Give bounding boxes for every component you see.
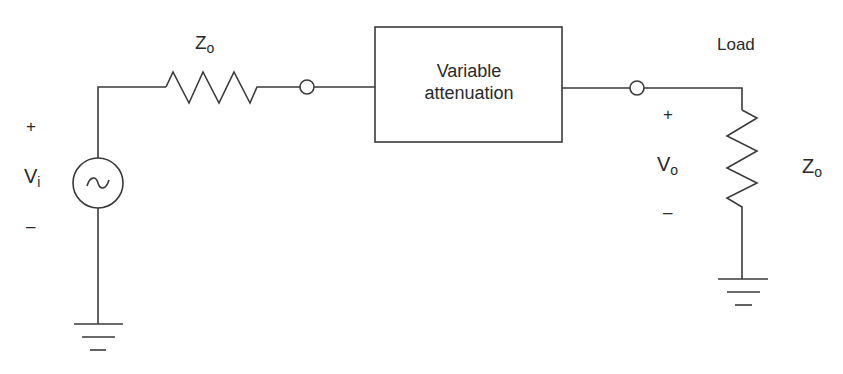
label-main: Z <box>802 155 814 177</box>
ac-source-tilde-icon <box>87 178 109 188</box>
wire-to-load <box>644 88 742 110</box>
input-terminal <box>300 80 314 94</box>
label-sub: o <box>670 162 678 178</box>
attenuator-label: Variable attenuation <box>375 60 563 104</box>
output-minus-sign: – <box>663 204 672 221</box>
label-main: V <box>24 165 37 187</box>
circuit-schematic <box>0 0 843 374</box>
label-main: V <box>657 153 670 175</box>
ground-symbol-left <box>74 324 123 350</box>
load-resistor-label: Zo <box>802 156 822 179</box>
output-voltage-label: Vo <box>657 154 678 177</box>
label-sub: o <box>814 164 822 180</box>
label-sub: i <box>37 174 40 190</box>
output-terminal <box>630 81 644 95</box>
ground-symbol-right <box>718 279 768 305</box>
attenuator-label-line1: Variable <box>375 60 563 82</box>
output-plus-sign: + <box>663 106 673 123</box>
load-resistor-zigzag <box>727 110 757 279</box>
source-voltage-label: Vi <box>24 166 40 189</box>
load-title: Load <box>717 36 755 53</box>
series-resistor-label: Zo <box>195 33 214 55</box>
source-plus-sign: + <box>26 118 36 135</box>
attenuator-label-line2: attenuation <box>375 82 563 104</box>
label-sub: o <box>207 40 215 56</box>
series-resistor-zigzag <box>166 72 300 103</box>
wire-source-top <box>98 87 166 158</box>
label-main: Z <box>195 32 207 53</box>
source-minus-sign: – <box>26 218 35 235</box>
